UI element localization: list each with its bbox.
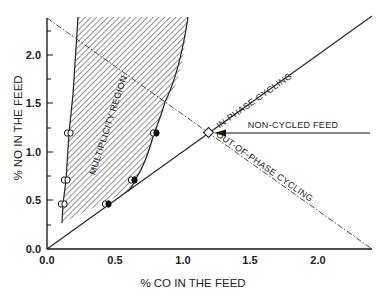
- multiplicity-region: [62, 17, 188, 223]
- out-of-phase-cycling-label: OUT-OF-PHASE CYCLING: [214, 129, 315, 204]
- y-ticks: [47, 31, 53, 225]
- x-axis-label: % CO IN THE FEED: [140, 277, 245, 289]
- chart-canvas: 0.0 0.5 1.0 1.5 2.0 0.0 0.5 1.0 1.5 2.0 …: [0, 0, 381, 298]
- y-tick-label: 1.0: [26, 146, 41, 158]
- x-tick-label: 2.0: [310, 254, 325, 266]
- y-tick-label: 0.5: [26, 194, 41, 206]
- x-tick-label: 1.0: [175, 254, 190, 266]
- y-tick-label: 1.5: [26, 97, 41, 109]
- x-tick-label: 0.0: [39, 254, 54, 266]
- y-axis-label: % NO IN THE FEED: [12, 75, 24, 180]
- x-tick-label: 0.5: [107, 254, 122, 266]
- y-tick-label: 2.0: [26, 49, 41, 61]
- x-tick-label: 1.5: [242, 254, 257, 266]
- non-cycled-feed-label: NON-CYCLED FEED: [248, 120, 339, 130]
